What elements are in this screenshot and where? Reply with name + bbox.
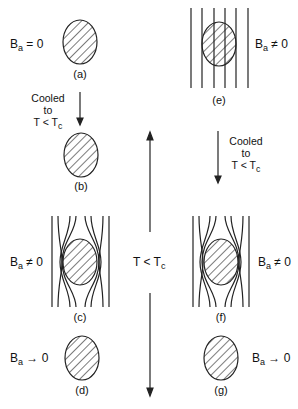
meissner-diagram-canvas <box>0 0 298 409</box>
caption-c: (c) <box>65 311 95 323</box>
caption-g: (g) <box>206 384 236 396</box>
sample-e <box>202 22 236 66</box>
center-temp-label: T < Tc <box>133 256 165 269</box>
cooling-label-right: CooledtoT < Tc <box>224 135 268 175</box>
sample-g <box>204 336 238 380</box>
field-label-g: Ba → 0 <box>252 352 290 365</box>
caption-a: (a) <box>65 68 95 80</box>
caption-b: (b) <box>66 180 96 192</box>
field-label-d: Ba → 0 <box>10 352 48 365</box>
caption-f: (f) <box>206 311 236 323</box>
sample-b <box>64 133 98 177</box>
field-label-a: Ba = 0 <box>10 38 43 51</box>
sample-d <box>65 336 99 380</box>
field-label-f: Ba ≠ 0 <box>258 256 291 269</box>
field-label-e: Ba ≠ 0 <box>255 38 288 51</box>
field-label-c: Ba ≠ 0 <box>10 256 43 269</box>
caption-e: (e) <box>204 94 234 106</box>
sample-c <box>63 239 97 285</box>
sample-a <box>63 20 97 64</box>
cooling-label-left: CooledtoT < Tc <box>26 92 70 132</box>
caption-d: (d) <box>67 384 97 396</box>
sample-f <box>204 239 238 285</box>
